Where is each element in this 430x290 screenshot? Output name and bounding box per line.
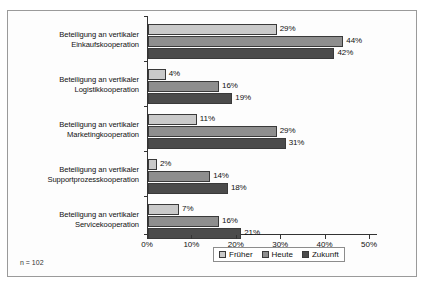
bar-value-label: 14% [213, 170, 229, 181]
bar-value-label: 21% [244, 227, 260, 238]
bar-row: 44% [148, 36, 377, 47]
bar-value-label: 11% [200, 113, 215, 124]
bar [148, 48, 334, 59]
legend-label: Heute [272, 250, 293, 259]
category-label-line2: Einkaufskooperation [7, 40, 139, 50]
x-axis-tick-label: 50% [361, 240, 377, 249]
bar [148, 93, 232, 104]
bar-value-label: 29% [280, 23, 296, 34]
bar [148, 159, 157, 170]
bar-row: 11% [148, 114, 377, 125]
bar [148, 138, 286, 149]
legend-entry[interactable]: Heute [262, 250, 293, 259]
bar [148, 24, 277, 35]
bar [148, 81, 219, 92]
bar [148, 204, 179, 215]
value-axis-tick [325, 235, 326, 239]
category-axis-tick [144, 61, 148, 62]
bar-value-label: 2% [160, 158, 171, 169]
bar-value-label: 16% [222, 80, 238, 91]
category-axis-tick [144, 16, 148, 17]
category-label-line1: Beteiligung an vertikaler [59, 210, 139, 219]
legend-label: Zukunft [312, 250, 339, 259]
bar [148, 69, 166, 80]
bar [148, 114, 197, 125]
bar-value-label: 18% [231, 182, 247, 193]
category-axis-tick [144, 196, 148, 197]
bar-row: 29% [148, 24, 377, 35]
bar-value-label: 19% [235, 92, 251, 103]
value-axis-tick [280, 235, 281, 239]
value-axis-tick [191, 235, 192, 239]
category-label: Beteiligung an vertikalerEinkaufskoopera… [7, 30, 139, 49]
bar-row: 4% [148, 69, 377, 80]
bar-value-label: 31% [289, 137, 305, 148]
bar-row: 19% [148, 93, 377, 104]
chart-legend: FrüherHeuteZukunft [213, 247, 345, 262]
value-axis-tick [369, 235, 370, 239]
bar [148, 126, 277, 137]
bar [148, 183, 228, 194]
legend-swatch-icon [262, 251, 269, 258]
category-label-line1: Beteiligung an vertikaler [59, 30, 139, 39]
category-label: Beteiligung an vertikalerSupportprozessk… [7, 165, 139, 184]
legend-swatch-icon [302, 251, 309, 258]
bar [148, 171, 210, 182]
bar [148, 36, 343, 47]
sample-size-footnote: n = 102 [20, 259, 44, 266]
legend-entry[interactable]: Zukunft [302, 250, 339, 259]
category-label: Beteiligung an vertikalerServicekooperat… [7, 210, 139, 229]
category-label-line1: Beteiligung an vertikaler [59, 75, 139, 84]
bar-row: 16% [148, 216, 377, 227]
category-label-line2: Marketingkooperation [7, 130, 139, 140]
bar-row: 21% [148, 228, 377, 239]
chart-frame: Beteiligung an vertikalerEinkaufskoopera… [7, 10, 417, 277]
value-axis-tick [236, 235, 237, 239]
bar-row: 2% [148, 159, 377, 170]
bar-row: 7% [148, 204, 377, 215]
category-axis-tick [144, 151, 148, 152]
category-label-line2: Servicekooperation [7, 220, 139, 230]
bar-row: 31% [148, 138, 377, 149]
category-label-line2: Logistikkooperation [7, 85, 139, 95]
category-label: Beteiligung an vertikalerMarketingkooper… [7, 120, 139, 139]
bar-row: 18% [148, 183, 377, 194]
category-label: Beteiligung an vertikalerLogistikkoopera… [7, 75, 139, 94]
bar-row: 16% [148, 81, 377, 92]
category-axis-tick [144, 106, 148, 107]
bar-value-label: 44% [346, 35, 362, 46]
x-axis-tick-label: 0% [141, 240, 153, 249]
value-axis-tick [147, 235, 148, 239]
plot-area: 29%44%42%4%16%19%11%29%31%2%14%18%7%16%2… [147, 16, 377, 234]
bar-row: 29% [148, 126, 377, 137]
legend-swatch-icon [219, 251, 226, 258]
bar [148, 216, 219, 227]
x-axis-tick-label: 10% [183, 240, 199, 249]
category-label-line1: Beteiligung an vertikaler [59, 120, 139, 129]
bar-value-label: 4% [169, 68, 180, 79]
bar-value-label: 7% [182, 203, 193, 214]
legend-label: Früher [229, 250, 253, 259]
bar-row: 42% [148, 48, 377, 59]
bar [148, 228, 241, 239]
bar-value-label: 29% [280, 125, 296, 136]
legend-entry[interactable]: Früher [219, 250, 253, 259]
bar-row: 14% [148, 171, 377, 182]
category-label-line2: Supportprozesskooperation [7, 175, 139, 185]
bar-value-label: 42% [337, 47, 353, 58]
category-label-line1: Beteiligung an vertikaler [59, 165, 139, 174]
bar-value-label: 16% [222, 215, 238, 226]
